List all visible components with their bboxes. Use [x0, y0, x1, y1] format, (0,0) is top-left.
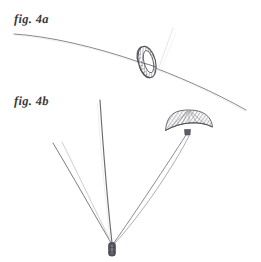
ring-axis-line	[158, 28, 173, 70]
suspended-weight	[109, 243, 116, 257]
plate-artwork	[0, 0, 261, 262]
ring-body	[135, 44, 159, 79]
canopy-hub	[185, 130, 191, 136]
fig-4a-group	[14, 28, 246, 111]
fig-4b-group	[53, 100, 213, 256]
figure-label-4a: fig. 4a	[14, 12, 49, 27]
suspension-line-left-outer	[53, 143, 111, 243]
figure-plate: fig. 4a fig. 4b	[0, 0, 261, 262]
ring-axis-line-secondary	[161, 33, 176, 69]
trajectory-arc	[14, 34, 246, 110]
suspension-line-right-outer	[114, 135, 187, 244]
canopy-dome	[166, 110, 213, 135]
figure-label-4b: fig. 4b	[14, 94, 49, 109]
suspension-line-right-inner	[115, 136, 190, 244]
trajectory-arc-shadow	[16, 35, 245, 111]
suspension-line-vertical	[100, 100, 112, 243]
